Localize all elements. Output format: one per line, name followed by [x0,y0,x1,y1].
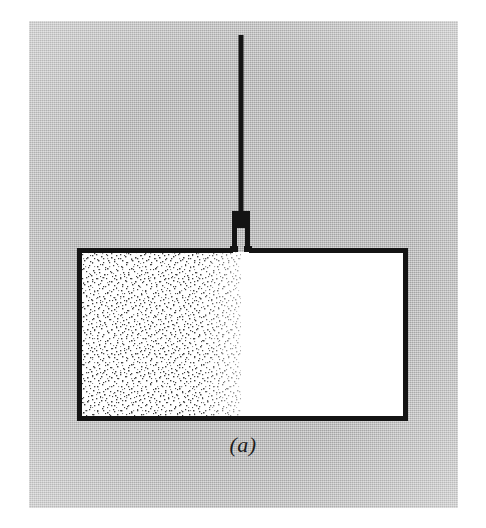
figure-caption: (a) [0,432,486,458]
stopcock-valve [230,211,252,252]
gas-compartment [80,252,241,418]
figure-page: (a) [0,0,486,528]
suspension-rod-tip [239,35,243,40]
vacuum-compartment [241,252,405,418]
suspension-rod [239,35,244,215]
